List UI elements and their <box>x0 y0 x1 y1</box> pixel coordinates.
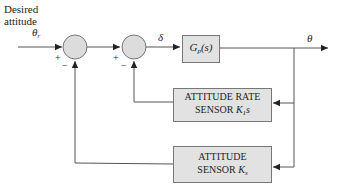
error-signal-label: δ <box>158 31 163 43</box>
attitude-sensor-line1: ATTITUDE <box>197 150 247 163</box>
attitude-sensor-block: ATTITUDE SENSOR Ks <box>173 146 272 183</box>
attitude-sensor-line2: SENSOR Ks <box>197 163 247 180</box>
summing-junction-1 <box>63 35 87 59</box>
plant-block: Gp(s) <box>182 35 220 63</box>
summing-junction-2 <box>122 35 146 59</box>
output-signal-label: θ <box>307 32 312 44</box>
sum2-minus-sign: − <box>121 60 127 71</box>
attitude-feedback-line <box>75 61 173 164</box>
sum1-plus-sign: + <box>55 52 61 63</box>
input-symbol: θr <box>32 26 40 40</box>
sum1-minus-sign: − <box>62 60 68 71</box>
plant-transfer-function: Gp(s) <box>189 41 212 58</box>
rate-feedback-line <box>134 61 173 102</box>
rate-sensor-line2: SENSOR K1s <box>185 103 261 120</box>
sum2-plus-sign: + <box>113 52 119 63</box>
rate-sensor-line1: ATTITUDE RATE <box>185 90 261 103</box>
input-label-line1: Desired <box>4 3 38 15</box>
attitude-rate-sensor-block: ATTITUDE RATE SENSOR K1s <box>173 88 272 122</box>
input-label: Desired attitude <box>4 3 38 27</box>
block-diagram-canvas <box>0 0 344 193</box>
